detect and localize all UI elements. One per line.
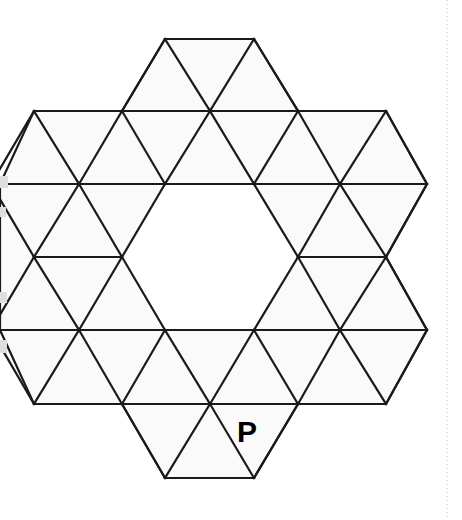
scan-smudge-3 <box>0 340 7 353</box>
hexagonal-star-figure <box>0 0 462 520</box>
scan-smudge-0 <box>0 176 8 188</box>
scan-smudge-1 <box>0 207 6 217</box>
scan-smudge-2 <box>0 292 7 303</box>
figure-page: P <box>0 0 462 520</box>
